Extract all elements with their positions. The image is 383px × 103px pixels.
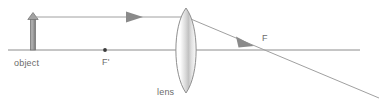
object-arrow-head bbox=[28, 13, 38, 20]
object-label: object bbox=[14, 58, 40, 68]
near-focal-point-dot bbox=[103, 48, 107, 52]
object-arrow-shaft bbox=[31, 18, 36, 50]
far-focal-point-label: F bbox=[262, 33, 268, 43]
ray-diagram-canvas: object F' lens F bbox=[0, 0, 383, 103]
lens-shape bbox=[176, 8, 196, 93]
near-focal-point-label: F' bbox=[102, 57, 110, 67]
refracted-ray bbox=[186, 17, 379, 98]
incident-ray-arrowhead bbox=[126, 12, 143, 23]
optics-ray-diagram: object F' lens F bbox=[0, 0, 383, 103]
lens-label: lens bbox=[157, 87, 175, 97]
object-arrow bbox=[28, 13, 38, 51]
refracted-ray-arrowhead bbox=[236, 37, 254, 48]
